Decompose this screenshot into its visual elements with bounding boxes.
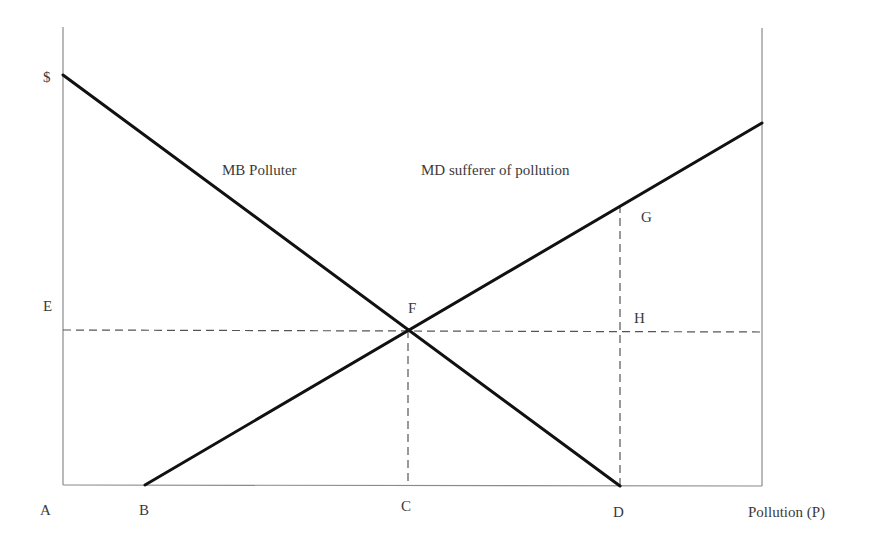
point-label-B: B	[139, 502, 149, 518]
point-label-C: C	[401, 498, 411, 514]
point-label-H: H	[634, 310, 645, 326]
mb-polluter-curve	[63, 75, 620, 486]
point-label-G: G	[641, 209, 652, 225]
point-label-D: D	[613, 504, 624, 520]
mb-polluter-label: MB Polluter	[222, 162, 297, 178]
x-axis	[63, 485, 762, 486]
pollution-diagram: MB Polluter MD sufferer of pollution $ P…	[0, 0, 879, 550]
point-label-F: F	[408, 300, 416, 316]
md-sufferer-label: MD sufferer of pollution	[421, 162, 570, 178]
y-axis-label: $	[43, 69, 51, 85]
x-axis-label: Pollution (P)	[748, 504, 825, 521]
point-label-A: A	[40, 502, 51, 518]
point-label-E: E	[43, 298, 52, 314]
